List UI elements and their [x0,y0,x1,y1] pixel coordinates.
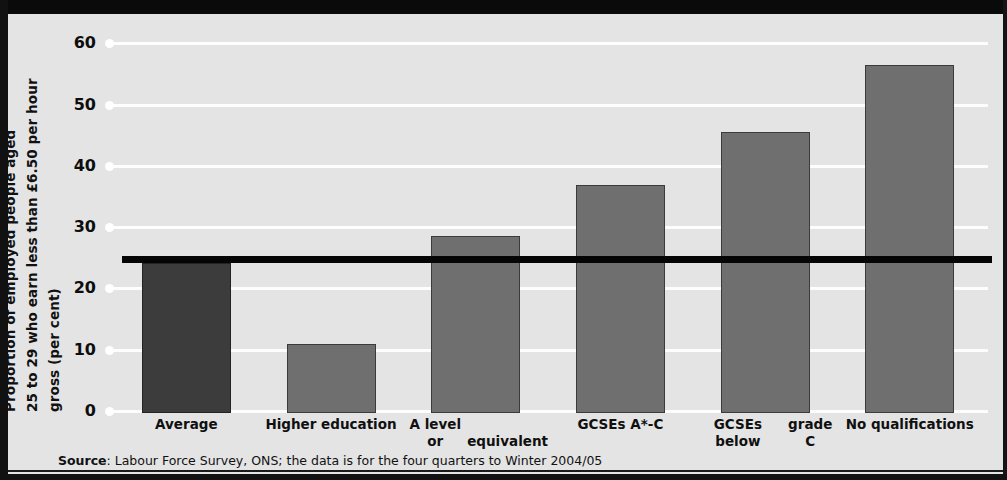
x-axis-label-line: Average [155,416,218,433]
x-axis-label-line: GCSEs below [693,416,783,450]
x-axis-label-no-qualifications: No qualifications [837,416,982,433]
y-axis-title: Proportion of employed people aged 25 to… [16,22,76,412]
y-axis-title-line-2: 25 to 29 who earn less than £6.50 per ho… [24,22,40,412]
bar-slot [114,33,259,413]
bottom-rule [8,470,1003,472]
y-tick-label-10: 10 [74,339,96,358]
x-axis-label-line: grade C [783,416,837,450]
y-axis-title-line-3: gross (per cent) [46,288,62,412]
source-note: Source: Labour Force Survey, ONS; the da… [58,453,602,468]
x-axis-label-line: No qualifications [846,416,974,433]
bar-average[interactable] [142,263,231,413]
y-tick-label-20: 20 [74,278,96,297]
chart-figure: Proportion of employed people aged 25 to… [0,0,1007,480]
x-axis-label-higher-education: Higher education [259,416,404,433]
x-axis-label-a-level-or-equivalent: A level orequivalent [403,416,548,450]
x-axis-label-line: A level or [403,416,467,450]
bottom-black-band [0,474,1007,480]
bar-gcses-below-grade-c[interactable] [721,132,810,413]
bar-no-qualifications[interactable] [865,65,954,413]
bar-higher-education[interactable] [287,344,376,413]
bar-gcses-a-c[interactable] [576,185,665,413]
y-tick-label-60: 60 [74,33,96,52]
x-axis-label-average: Average [114,416,259,433]
source-label: Source [58,453,107,468]
x-axis-label-gcses-below-grade-c: GCSEs belowgrade C [693,416,838,450]
plot-area: 0102030405060 [108,33,988,413]
source-text: : Labour Force Survey, ONS; the data is … [107,453,603,468]
y-axis-title-line-1: Proportion of employed people aged [2,22,18,412]
top-black-band [0,0,1007,14]
x-axis-label-line: GCSEs A*-C [577,416,663,433]
y-tick-label-0: 0 [85,401,96,420]
bar-a-level-or-equivalent[interactable] [431,236,520,413]
bar-series [108,33,988,413]
bar-slot [837,33,982,413]
bar-slot [259,33,404,413]
bar-slot [548,33,693,413]
bar-slot [693,33,838,413]
y-tick-label-30: 30 [74,217,96,236]
x-axis-labels: AverageHigher educationA level orequival… [108,416,988,450]
y-axis-title-line-2a: 25 to 29 who earn less than £6.50 per ho… [24,78,40,412]
x-axis-label-gcses-a-c: GCSEs A*-C [548,416,693,433]
y-tick-label-40: 40 [74,155,96,174]
x-axis-label-line: Higher education [265,416,396,433]
y-tick-label-50: 50 [74,94,96,113]
bar-slot [403,33,548,413]
right-black-band [1003,0,1007,480]
average-reference-line [122,256,992,263]
x-axis-label-line: equivalent [467,433,548,450]
